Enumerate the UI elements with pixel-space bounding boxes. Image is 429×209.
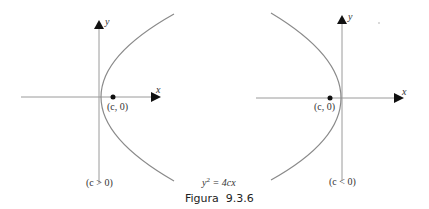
- left-y-arrow-icon: [94, 20, 104, 29]
- left-focus-label: (c, 0): [107, 101, 128, 112]
- figure-caption: Figura 9.3.6: [185, 192, 254, 205]
- right-focus-point: [328, 96, 333, 101]
- right-graph: [256, 13, 404, 180]
- left-y-axis-label: y: [105, 16, 109, 27]
- right-y-arrow-icon: [337, 15, 347, 24]
- left-focus-point: [111, 95, 116, 100]
- right-condition-label: (c < 0): [329, 176, 356, 187]
- right-x-axis-label: x: [402, 86, 406, 97]
- right-focus-label: (c, 0): [314, 101, 335, 112]
- left-condition-label: (c > 0): [86, 177, 113, 188]
- right-y-axis-label: y: [348, 11, 352, 22]
- left-graph: [21, 14, 174, 183]
- scan-artifact-dot: [378, 22, 380, 24]
- equation-rest: = 4cx: [210, 177, 236, 188]
- equation-label: y2 = 4cx: [202, 176, 236, 188]
- left-x-axis-label: x: [156, 84, 160, 95]
- parabola-figure: y x (c, 0) (c > 0) y x (c, 0) (c < 0) y2…: [0, 0, 429, 209]
